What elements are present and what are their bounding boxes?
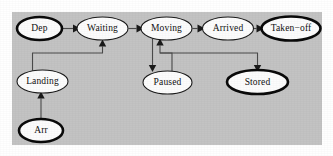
node-moving[interactable]: Moving xyxy=(141,17,192,40)
state-diagram-container: Dep Waiting Moving Arrived Taken−off Lan xyxy=(0,0,333,156)
node-dep[interactable]: Dep xyxy=(17,17,62,40)
node-stored[interactable]: Stored xyxy=(227,70,288,94)
node-arrived-label: Arrived xyxy=(213,23,244,33)
node-takenoff-label: Taken−off xyxy=(271,23,312,33)
node-takenoff[interactable]: Taken−off xyxy=(262,17,321,41)
node-stored-label: Stored xyxy=(245,77,271,87)
node-arrived[interactable]: Arrived xyxy=(203,17,254,40)
node-waiting[interactable]: Waiting xyxy=(77,17,128,40)
node-waiting-label: Waiting xyxy=(87,23,118,33)
state-diagram-canvas: Dep Waiting Moving Arrived Taken−off Lan xyxy=(0,0,333,156)
node-paused-label: Paused xyxy=(154,77,182,87)
node-landing-label: Landing xyxy=(26,76,59,86)
node-arr[interactable]: Arr xyxy=(19,119,63,142)
node-moving-label: Moving xyxy=(151,23,182,33)
node-arr-label: Arr xyxy=(34,125,48,135)
node-dep-label: Dep xyxy=(31,23,47,33)
node-paused[interactable]: Paused xyxy=(143,71,192,94)
node-landing[interactable]: Landing xyxy=(17,70,68,93)
